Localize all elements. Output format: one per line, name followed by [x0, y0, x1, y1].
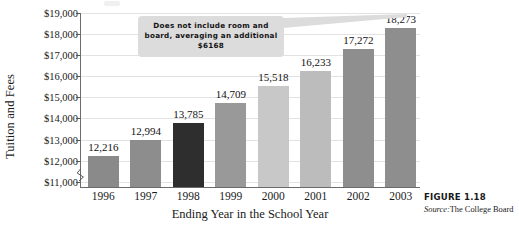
figure-source-value: The College Board [450, 205, 514, 214]
bar [215, 103, 246, 188]
x-axis-tick-label: 1999 [219, 190, 242, 202]
y-axis-tick-label: $15,000 [20, 92, 78, 103]
bar-fill [343, 49, 374, 188]
bar-value-label: 15,518 [258, 71, 288, 83]
bar [258, 86, 289, 188]
callout-line-1: Does not include room and [144, 21, 278, 31]
page-artifact [104, 1, 120, 6]
bar-value-label: 12,994 [131, 125, 161, 137]
x-axis-title: Ending Year in the School Year [80, 207, 420, 222]
bar-fill [215, 103, 246, 188]
bar [300, 71, 331, 188]
y-axis-tick-label: $17,000 [20, 50, 78, 61]
bar-value-label: 13,785 [173, 108, 203, 120]
x-axis-tick-labels: 19961997199819992000200120022003 [80, 190, 420, 206]
x-axis-tick-label: 2003 [389, 190, 412, 202]
bar-fill [300, 71, 331, 188]
y-axis-tick-label: $12,000 [20, 155, 78, 166]
figure-source: Source:The College Board [424, 205, 518, 214]
y-axis-tick-label: $13,000 [20, 134, 78, 145]
x-axis-tick-label: 1997 [134, 190, 157, 202]
x-axis-tick-label: 2002 [347, 190, 370, 202]
x-axis-tick-label: 1996 [92, 190, 115, 202]
x-axis-line [80, 187, 420, 188]
y-axis-title-text: Tuition and Fees [4, 73, 19, 158]
figure-1-18: Tuition and Fees $11,000$12,000$13,000$1… [0, 0, 519, 241]
callout-pointer-icon [283, 14, 407, 38]
bar [130, 140, 161, 188]
figure-caption: FIGURE 1.18 Source:The College Board [424, 192, 518, 214]
y-axis-tick-label: $19,000 [20, 8, 78, 19]
y-axis-tick-label: $18,000 [20, 29, 78, 40]
bar-fill [173, 123, 204, 188]
figure-number: FIGURE 1.18 [424, 192, 518, 202]
bar [343, 49, 374, 188]
y-axis-tick-label: $11,000 [20, 176, 78, 187]
bar-value-label: 16,233 [301, 56, 331, 68]
bar-fill [258, 86, 289, 188]
bar-fill [88, 156, 119, 188]
x-axis-tick-label: 2001 [304, 190, 327, 202]
figure-source-label: Source: [424, 205, 450, 214]
room-and-board-callout: Does not include room and board, averagi… [138, 16, 284, 57]
bar [385, 28, 416, 188]
y-axis-tick-label: $14,000 [20, 113, 78, 124]
bar-value-label: 12,216 [88, 141, 118, 153]
callout-line-2: board, averaging an additional $6168 [144, 31, 278, 51]
y-axis-tick-labels: $11,000$12,000$13,000$14,000$15,000$16,0… [18, 0, 78, 241]
bar-value-label: 14,709 [216, 88, 246, 100]
x-axis-tick-label: 1998 [177, 190, 200, 202]
x-axis-tick-label: 2000 [262, 190, 285, 202]
bar-fill [385, 28, 416, 188]
y-axis-tick-label: $16,000 [20, 71, 78, 82]
bar-fill [130, 140, 161, 188]
bar [88, 156, 119, 188]
bar [173, 123, 204, 188]
